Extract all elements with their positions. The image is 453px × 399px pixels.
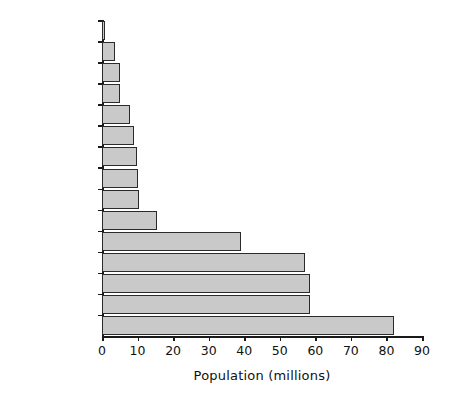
bar-row — [102, 211, 157, 230]
x-tick-label: 10 — [130, 343, 146, 358]
bar-portugal — [102, 147, 137, 166]
x-tick — [138, 336, 140, 341]
x-tick-label: 20 — [165, 343, 181, 358]
bar-uk — [102, 274, 310, 293]
bar-row — [102, 147, 137, 166]
x-tick-label: 0 — [98, 343, 106, 358]
x-tick-label: 80 — [378, 343, 394, 358]
bar-greece — [102, 190, 139, 209]
x-tick — [315, 336, 317, 341]
bar-ireland — [102, 42, 115, 61]
bar-italy — [102, 253, 305, 272]
x-tick-label: 90 — [414, 343, 430, 358]
bar-row — [102, 42, 115, 61]
x-tick — [386, 336, 388, 341]
x-tick — [422, 336, 424, 341]
bar-denmark — [102, 84, 120, 103]
bar-row — [102, 253, 305, 272]
x-tick — [351, 336, 353, 341]
bar-row — [102, 190, 139, 209]
bar-row — [102, 274, 310, 293]
x-tick — [102, 336, 104, 341]
bar-row — [102, 84, 120, 103]
x-tick — [173, 336, 175, 341]
x-tick-label: 30 — [201, 343, 217, 358]
bar-row — [102, 169, 138, 188]
x-tick — [244, 336, 246, 341]
plot-area: 0102030405060708090 LuxembourgIrelandFin… — [102, 20, 422, 356]
bar-row — [102, 295, 310, 314]
bar-row — [102, 316, 394, 335]
bar-row — [102, 126, 134, 145]
bar-belgium — [102, 169, 138, 188]
bar-sweden — [102, 126, 134, 145]
bar-chart: 0102030405060708090 LuxembourgIrelandFin… — [0, 0, 453, 399]
bar-finland — [102, 63, 120, 82]
x-axis-title: Population (millions) — [102, 368, 422, 383]
x-tick-label: 60 — [307, 343, 323, 358]
bar-luxembourg — [102, 21, 105, 40]
x-tick-label: 40 — [236, 343, 252, 358]
bar-austria — [102, 105, 130, 124]
bar-row — [102, 232, 241, 251]
x-tick — [209, 336, 211, 341]
bar-germany — [102, 316, 394, 335]
bar-netherlands — [102, 211, 157, 230]
x-tick-label: 70 — [343, 343, 359, 358]
bar-spain — [102, 232, 241, 251]
bar-row — [102, 21, 105, 40]
bar-row — [102, 105, 130, 124]
x-axis-line — [102, 336, 422, 338]
x-tick — [280, 336, 282, 341]
bar-row — [102, 63, 120, 82]
x-tick-label: 50 — [272, 343, 288, 358]
bar-france — [102, 295, 310, 314]
